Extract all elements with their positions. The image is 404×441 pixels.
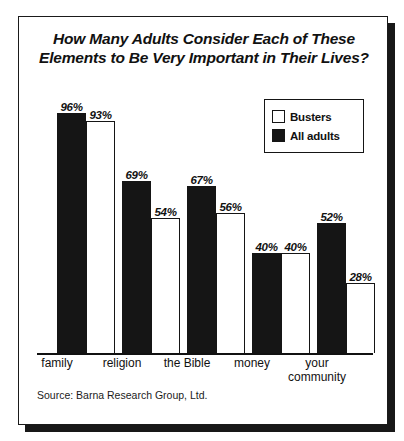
bar-dark: 96% (57, 113, 86, 353)
category-label: your community (274, 357, 360, 384)
bar-value-label: 67% (190, 174, 212, 186)
legend-item-all-adults: All adults (272, 126, 355, 145)
bar-value-label: 96% (60, 101, 82, 113)
bar-light: 93% (86, 121, 115, 354)
legend-label-busters: Busters (290, 111, 331, 123)
bar-light: 54% (151, 218, 180, 353)
bar-value-label: 52% (320, 211, 342, 223)
bar-pair: 96%93% (57, 103, 115, 353)
source-note: Source: Barna Research Group, Ltd. (37, 389, 207, 401)
bar-pair: 69%54% (122, 103, 180, 353)
bar-value-label: 40% (255, 241, 277, 253)
bar-dark: 52% (317, 223, 346, 353)
bar-pair: 67%56% (187, 103, 245, 353)
bar-value-label: 40% (284, 241, 306, 253)
legend-swatch-busters-icon (272, 110, 285, 123)
chart-figure-frame: How Many Adults Consider Each of These E… (18, 16, 388, 425)
bar-light: 40% (281, 253, 310, 353)
plot-area: 96%93%family69%54%religion67%56%the Bibl… (19, 17, 389, 426)
chart-legend: Busters All adults (264, 99, 364, 153)
bar-value-label: 69% (125, 169, 147, 181)
axis-baseline (37, 353, 373, 355)
bar-value-label: 28% (349, 271, 371, 283)
legend-item-busters: Busters (272, 107, 355, 126)
bar-value-label: 93% (89, 109, 111, 121)
bar-dark: 40% (252, 253, 281, 353)
legend-label-all-adults: All adults (290, 130, 340, 142)
bar-dark: 69% (122, 181, 151, 354)
bar-dark: 67% (187, 186, 216, 354)
bar-light: 56% (216, 213, 245, 353)
bar-value-label: 56% (219, 201, 241, 213)
bar-light: 28% (346, 283, 375, 353)
legend-swatch-all-adults-icon (272, 129, 285, 142)
bar-value-label: 54% (154, 206, 176, 218)
